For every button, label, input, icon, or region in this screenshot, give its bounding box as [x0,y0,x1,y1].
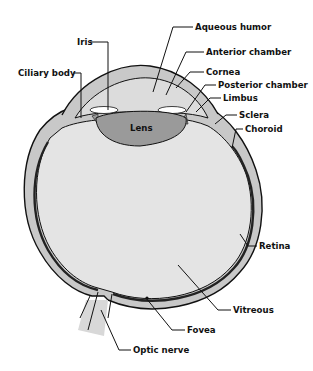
label-fovea: Fovea [187,325,216,335]
eye-anatomy-diagram: Lens Iris Ciliary body Aqueous humor Ant… [0,0,313,371]
optic-nerve [78,300,108,336]
label-aqueous-humor: Aqueous humor [195,22,272,32]
iris-left [90,107,118,114]
label-iris: Iris [77,37,93,47]
label-anterior-chamber: Anterior chamber [206,47,292,57]
label-ciliary-body: Ciliary body [18,68,76,78]
label-lens: Lens [130,123,153,133]
label-sclera: Sclera [239,110,269,120]
eyeball [24,65,262,336]
label-vitreous: Vitreous [233,305,274,315]
label-optic-nerve: Optic nerve [133,345,189,355]
label-limbus: Limbus [223,93,258,103]
label-retina: Retina [259,241,291,251]
label-cornea: Cornea [206,67,240,77]
label-choroid: Choroid [245,124,283,134]
label-posterior-chamber: Posterior chamber [218,80,309,90]
